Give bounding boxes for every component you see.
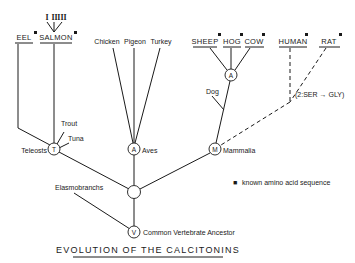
svg-text:M: M [212, 146, 217, 153]
known-sequence-marker-cow [262, 33, 265, 36]
branch-dog [212, 96, 224, 110]
label-tuna: Tuna [68, 135, 84, 142]
branch-human-rat-mammalia [221, 102, 290, 145]
legend-marker: ■ [233, 179, 237, 186]
branch-salmon-iii [54, 22, 62, 32]
label-trout: Trout [61, 120, 77, 127]
branch-sheep [210, 48, 227, 70]
label-dog: Dog [206, 88, 219, 96]
annotation-ser-gly: (2:SER → GLY) [295, 91, 344, 99]
node-mammalia: M [209, 143, 221, 155]
legend-text: known amino acid sequence [242, 179, 330, 187]
branch-mammalia-junction [140, 153, 210, 189]
branch-chicken [113, 48, 133, 143]
known-sequence-marker-hog [240, 33, 243, 36]
node-junction [128, 186, 141, 199]
label-hog: HOG [223, 37, 241, 46]
branch-trout [57, 132, 64, 144]
label-salmon: SALMON [39, 33, 72, 42]
label-common-vertebrate-ancestor: Common Vertebrate Ancestor [143, 229, 235, 236]
node-artiodactyla: A [225, 69, 237, 81]
label-teleosts: Teleosts [21, 147, 47, 154]
salmon-variant-i: I [45, 13, 48, 22]
node-teleosts: T [48, 143, 60, 155]
svg-text:T: T [52, 146, 56, 153]
legend: ■ known amino acid sequence [233, 179, 330, 187]
label-elasmobranchs: Elasmobranchs [55, 184, 104, 191]
salmon-variant-iii: III [57, 13, 66, 22]
branch-eel-join [18, 128, 50, 145]
svg-text:A: A [132, 146, 137, 153]
branch-tuna [59, 143, 69, 148]
diagram-title: EVOLUTION OF THE CALCITONINS [56, 245, 240, 255]
branch-turkey [135, 48, 160, 143]
label-turkey: Turkey [150, 38, 172, 46]
node-vertebrate: V [128, 226, 140, 238]
known-sequence-marker-rat [339, 33, 342, 36]
calcitonin-evolution-diagram: T A M A V I II III EEL SALMON Chicken Pi… [0, 0, 355, 263]
branch-cow [235, 48, 250, 70]
branch-elasmobranchs [74, 193, 130, 229]
label-mammalia: Mammalia [223, 147, 255, 154]
known-sequence-marker-sheep [218, 33, 221, 36]
label-pigeon: Pigeon [124, 38, 146, 46]
branch-salmon-i [47, 22, 54, 32]
label-chicken: Chicken [94, 38, 119, 45]
svg-text:A: A [229, 72, 234, 79]
known-sequence-marker-salmon [74, 31, 77, 34]
label-rat: RAT [321, 37, 336, 46]
node-aves: A [128, 143, 140, 155]
label-eel: EEL [16, 33, 31, 42]
label-aves: Aves [142, 147, 158, 154]
label-sheep: SHEEP [192, 37, 219, 46]
label-human: HUMAN [279, 37, 308, 46]
known-sequence-marker-eel [34, 31, 37, 34]
svg-text:V: V [132, 229, 137, 236]
known-sequence-marker-human [305, 33, 308, 36]
label-cow: COW [244, 37, 264, 46]
